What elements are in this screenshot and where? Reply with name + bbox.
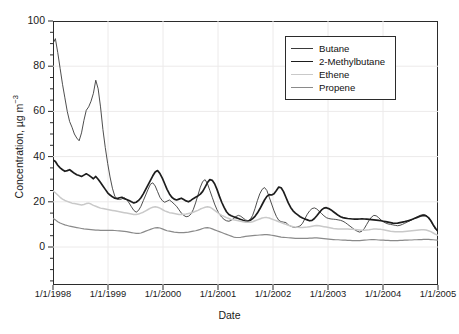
x-tick-label: 1/1/2004 bbox=[365, 288, 402, 299]
x-tick-label: 1/1/2003 bbox=[310, 288, 347, 299]
y-axis-title-text: Concentration, µg m bbox=[13, 104, 25, 199]
y-axis-ticks bbox=[48, 21, 53, 281]
legend-label: Butane bbox=[319, 42, 349, 55]
legend-item-ethene: Ethene bbox=[290, 68, 390, 81]
y-axis-title-exponent: −3 bbox=[11, 95, 20, 104]
chart-figure: 020406080100 1/1/19981/1/19991/1/20001/1… bbox=[0, 0, 459, 334]
legend-item-butane: Butane bbox=[290, 42, 390, 55]
x-tick-label: 1/1/2001 bbox=[200, 288, 237, 299]
legend-item-2-methylbutane: 2-Methylbutane bbox=[290, 55, 390, 68]
y-tick-label: 100 bbox=[0, 14, 45, 26]
legend-label: 2-Methylbutane bbox=[319, 55, 385, 68]
legend-line-swatch bbox=[290, 57, 314, 67]
legend-line-swatch bbox=[290, 83, 314, 93]
legend-label: Ethene bbox=[319, 68, 349, 81]
x-tick-label: 1/1/2000 bbox=[145, 288, 182, 299]
legend-line-swatch bbox=[290, 70, 314, 80]
y-axis-title: Concentration, µg m−3 bbox=[11, 67, 25, 227]
chart-legend: Butane2-MethylbutaneEthenePropene bbox=[285, 36, 396, 100]
x-tick-label: 1/1/1999 bbox=[90, 288, 127, 299]
legend-line-swatch bbox=[290, 44, 314, 54]
legend-label: Propene bbox=[319, 81, 355, 94]
y-tick-label: 0 bbox=[0, 240, 45, 252]
x-axis-title: Date bbox=[0, 309, 459, 321]
x-tick-label: 1/1/1998 bbox=[35, 288, 72, 299]
x-tick-label: 1/1/2002 bbox=[255, 288, 292, 299]
x-tick-label: 1/1/2005 bbox=[420, 288, 457, 299]
legend-item-propene: Propene bbox=[290, 81, 390, 94]
